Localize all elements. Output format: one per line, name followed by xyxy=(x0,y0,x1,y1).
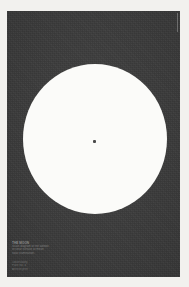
credit-block: Observatory Plate No. 4 Archive print xyxy=(12,261,86,271)
white-disc-figure xyxy=(23,64,167,214)
registration-tick-mark xyxy=(177,13,178,32)
poster-page: THE MOON Scale diagram of the albedo of … xyxy=(7,11,180,277)
caption-line: solar illumination. xyxy=(12,252,86,255)
caption-block: THE MOON Scale diagram of the albedo of … xyxy=(12,241,86,255)
poster-canvas: THE MOON Scale diagram of the albedo of … xyxy=(0,0,189,287)
center-reference-dot xyxy=(93,140,96,143)
credit-line: Archive print xyxy=(12,268,86,271)
